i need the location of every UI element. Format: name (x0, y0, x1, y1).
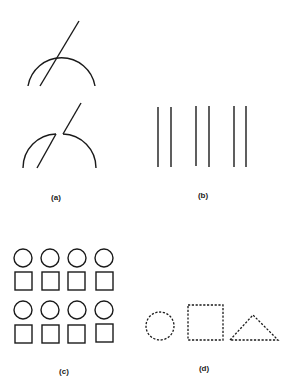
circle-shape (14, 301, 32, 319)
square-shape (96, 272, 113, 290)
panel-label-c: (c) (59, 367, 69, 376)
dashed-triangle (230, 315, 278, 340)
panel-d: (d) (146, 305, 278, 373)
square-shape (15, 272, 32, 290)
square-shape (15, 325, 32, 343)
circle-shape (95, 301, 113, 319)
square-shape (42, 325, 59, 343)
square-shape (96, 324, 113, 342)
arc-shape (28, 58, 95, 86)
dashed-circle (146, 312, 174, 340)
panel-label-b: (b) (198, 191, 209, 200)
dashed-square (188, 305, 223, 340)
panel-label-a: (a) (51, 193, 61, 202)
circle-shape (68, 301, 86, 319)
panel-a: (a) (23, 21, 96, 202)
circle-shape (14, 249, 32, 267)
panel-b: (b) (158, 106, 246, 200)
gestalt-figure: (a) (b) (c) (d) (0, 0, 289, 388)
panel-label-d: (d) (199, 364, 210, 373)
circle-shape (95, 249, 113, 267)
crossing-line (40, 21, 79, 86)
circle-shape (68, 249, 86, 267)
square-shape (68, 272, 85, 290)
broken-arc-right (63, 134, 96, 168)
circle-shape (41, 301, 59, 319)
square-shape (68, 325, 85, 343)
broken-line-upper (63, 103, 81, 134)
square-shape (42, 272, 59, 290)
circle-shape (41, 249, 59, 267)
panel-c: (c) (14, 249, 113, 376)
